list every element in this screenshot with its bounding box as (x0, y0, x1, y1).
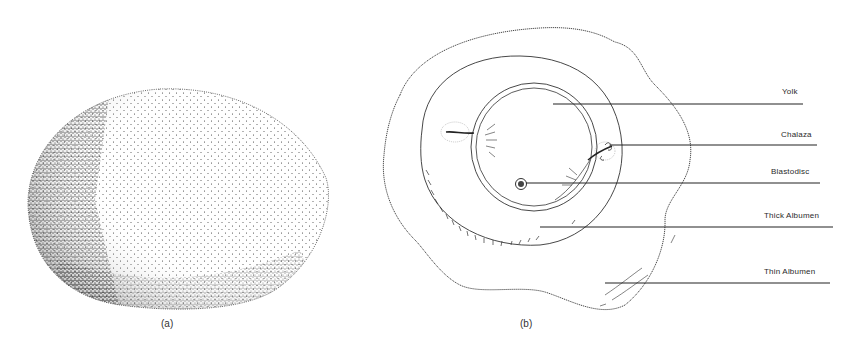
label-blastodisc: Blastodisc (771, 167, 809, 176)
yolk-inner (476, 88, 592, 206)
whole-egg (0, 0, 861, 345)
thin-albumen-outline (383, 28, 690, 310)
caption-b: (b) (520, 318, 532, 329)
label-yolk: Yolk (782, 87, 798, 96)
caption-a: (a) (161, 318, 173, 329)
chalaza-left (446, 132, 474, 133)
label-thick-albumen: Thick Albumen (764, 211, 819, 220)
broken-egg (383, 28, 690, 310)
egg-anatomy-figure: Yolk Chalaza Blastodisc Thick Albumen Th… (0, 0, 861, 345)
figure-drawing (0, 0, 861, 345)
label-thin-albumen: Thin Albumen (764, 267, 815, 276)
label-chalaza: Chalaza (781, 130, 812, 139)
